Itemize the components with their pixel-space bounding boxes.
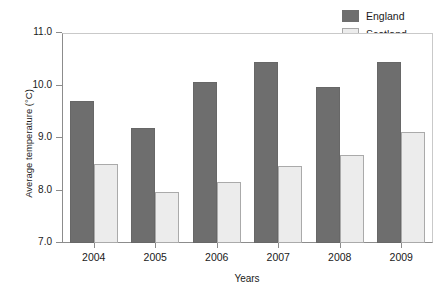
x-tick-mark	[401, 243, 402, 248]
bar-scotland-2006	[217, 182, 241, 243]
y-tick-mark	[56, 32, 62, 33]
x-tick-label-2009: 2009	[371, 251, 431, 263]
x-tick-mark	[340, 243, 341, 248]
x-tick-label-2008: 2008	[310, 251, 370, 263]
y-tick-label: 9.0	[18, 131, 52, 142]
x-tick-label-2005: 2005	[125, 251, 185, 263]
bar-group	[70, 33, 118, 243]
x-tick-mark	[94, 243, 95, 248]
bar-england-2006	[193, 82, 217, 243]
bar-scotland-2009	[401, 132, 425, 243]
bar-scotland-2008	[340, 155, 364, 243]
bar-group	[193, 33, 241, 243]
y-tick-mark	[56, 85, 62, 86]
bar-scotland-2005	[155, 192, 179, 243]
bar-england-2007	[254, 62, 278, 243]
bar-england-2009	[377, 62, 401, 243]
y-tick-mark	[56, 137, 62, 138]
bar-england-2008	[316, 87, 340, 243]
bar-scotland-2004	[94, 164, 118, 243]
x-tick-mark	[217, 243, 218, 248]
bar-group	[377, 33, 425, 243]
bar-england-2004	[70, 101, 94, 243]
y-tick-label: 11.0	[18, 26, 52, 37]
bar-scotland-2007	[278, 166, 302, 243]
y-tick-mark	[56, 190, 62, 191]
legend-item-england: England	[342, 8, 438, 23]
y-tick-label: 7.0	[18, 236, 52, 247]
x-tick-label-2004: 2004	[64, 251, 124, 263]
x-axis-title: Years	[60, 273, 434, 284]
y-tick-label: 10.0	[18, 79, 52, 90]
x-tick-label-2006: 2006	[187, 251, 247, 263]
bar-group	[131, 33, 179, 243]
legend-label-england: England	[366, 10, 405, 22]
bars-layer	[63, 33, 432, 243]
bar-chart: England Scotland Average temperature (°C…	[0, 0, 444, 295]
bar-group	[254, 33, 302, 243]
bar-england-2005	[131, 128, 155, 244]
y-tick-mark	[56, 242, 62, 243]
y-tick-label: 8.0	[18, 184, 52, 195]
x-tick-mark	[155, 243, 156, 248]
x-tick-mark	[278, 243, 279, 248]
bar-group	[316, 33, 364, 243]
legend-swatch-icon-england	[342, 10, 359, 22]
x-tick-label-2007: 2007	[248, 251, 308, 263]
